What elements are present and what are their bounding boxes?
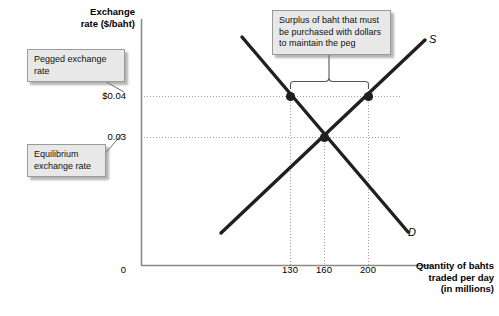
chart-canvas: Exchange rate ($/baht) Quantity of bahts… [0, 0, 499, 316]
axes [141, 19, 432, 266]
y-tick-label-equilibrium: 0.03 [78, 131, 126, 142]
y-tick-label-origin: 0 [112, 264, 126, 275]
point-equilibrium [320, 133, 329, 142]
callout-pegged-line1: Pegged exchange [34, 54, 118, 66]
x-tick-label-qs: 200 [355, 264, 381, 275]
gridlines [141, 96, 400, 265]
callout-pegged-line2: rate [34, 66, 118, 78]
callout-surplus: Surplus of baht that must be purchased w… [272, 10, 391, 55]
x-axis-title-line1: Quantity of bahts [393, 260, 494, 272]
x-axis-title-line3: (in millions) [393, 283, 494, 295]
x-tick-label-qe: 160 [311, 264, 337, 275]
demand-curve-label: D [408, 226, 416, 238]
x-axis-title-line2: traded per day [393, 272, 494, 284]
callout-pegged-exchange-rate: Pegged exchange rate [27, 49, 125, 82]
point-quantity-supplied [364, 92, 373, 101]
supply-curve-label: S [429, 33, 436, 45]
y-axis-title-line2: rate ($/baht) [55, 18, 135, 30]
point-quantity-demanded [286, 92, 295, 101]
surplus-brace [291, 53, 369, 89]
callout-surplus-line1: Surplus of baht that must [279, 15, 384, 27]
callout-equilibrium-exchange-rate: Equilibrium exchange rate [27, 144, 106, 177]
callout-surplus-line2: be purchased with dollars [279, 27, 384, 39]
callout-surplus-line3: to maintain the peg [279, 38, 384, 50]
y-axis-title-line1: Exchange [55, 6, 135, 18]
x-tick-label-qd: 130 [277, 264, 303, 275]
x-axis-title: Quantity of bahts traded per day (in mil… [393, 260, 494, 295]
callout-equilibrium-line1: Equilibrium [34, 149, 99, 161]
y-tick-label-peg: $0.04 [78, 90, 126, 101]
callout-equilibrium-line2: exchange rate [34, 161, 99, 173]
y-axis-title: Exchange rate ($/baht) [55, 6, 135, 29]
